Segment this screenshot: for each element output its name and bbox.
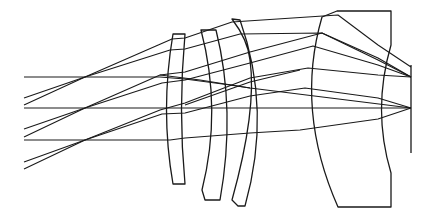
ray-oblique-1a <box>24 15 411 98</box>
ray-oblique-3b <box>24 88 411 169</box>
ray-axial-top <box>24 77 411 108</box>
ray-axial-bottom <box>24 108 411 140</box>
ray-oblique-2a <box>24 33 411 129</box>
ray-oblique-3a <box>24 68 411 162</box>
lens-ray-trace-diagram <box>0 0 435 218</box>
lens-2 <box>201 30 227 200</box>
ray-oblique-2b <box>24 46 411 137</box>
rear-element <box>312 11 391 207</box>
lens-3 <box>232 19 257 206</box>
lens-1 <box>167 34 186 184</box>
